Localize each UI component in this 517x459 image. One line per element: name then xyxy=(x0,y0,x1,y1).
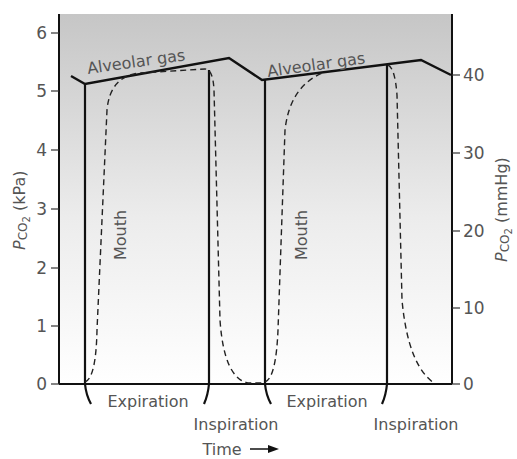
right-tick-0: 0 xyxy=(463,374,474,394)
right-axis: 40 30 20 10 0 PCO2 (mmHg) xyxy=(452,14,514,394)
left-tick-2: 2 xyxy=(36,258,47,278)
left-tick-4: 4 xyxy=(36,140,47,160)
left-tick-1: 1 xyxy=(36,316,47,336)
expiration-label-2: Expiration xyxy=(286,392,367,411)
right-tick-20: 20 xyxy=(463,221,485,241)
right-tick-10: 10 xyxy=(463,298,485,318)
right-axis-title: PCO2 (mmHg) xyxy=(492,157,514,262)
left-tick-5: 5 xyxy=(36,81,47,101)
inspiration-label-1: Inspiration xyxy=(194,415,279,434)
right-tick-30: 30 xyxy=(463,143,485,163)
mouth-label-1: Mouth xyxy=(111,210,130,260)
time-label: Time xyxy=(201,440,241,459)
left-axis-title: PCO2 (kPa) xyxy=(10,171,32,250)
expiration-label-1: Expiration xyxy=(107,392,188,411)
time-arrow-icon xyxy=(250,445,279,453)
right-tick-40: 40 xyxy=(463,65,485,85)
left-axis: 6 5 4 3 2 1 0 PCO2 (kPa) xyxy=(10,14,59,394)
left-tick-6: 6 xyxy=(36,23,47,43)
left-tick-0: 0 xyxy=(36,374,47,394)
left-tick-3: 3 xyxy=(36,199,47,219)
co2-diagram: 6 5 4 3 2 1 0 PCO2 (kPa) 40 30 20 10 0 P… xyxy=(0,0,517,459)
inspiration-label-2: Inspiration xyxy=(374,415,459,434)
mouth-label-2: Mouth xyxy=(292,210,311,260)
